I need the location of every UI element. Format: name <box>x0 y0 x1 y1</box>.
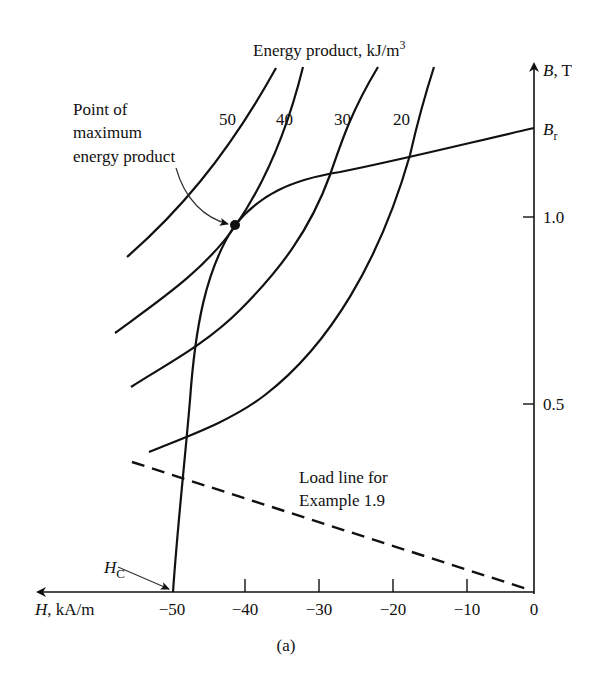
x-tick-label--40: −40 <box>232 600 259 619</box>
max-point-pointer-arrow <box>176 168 228 224</box>
hc-pointer-arrow <box>118 567 169 589</box>
x-axis <box>38 579 534 592</box>
max-energy-point <box>230 220 240 230</box>
demagnetization-curve <box>173 128 534 592</box>
x-tick-label-0: 0 <box>530 600 539 619</box>
curve-40 <box>115 67 303 333</box>
svg-text:Example 1.9: Example 1.9 <box>299 491 385 510</box>
x-axis-label: H, kA/m <box>34 600 95 619</box>
y-tick-label-1.0: 1.0 <box>543 208 564 227</box>
svg-text:maximum: maximum <box>73 123 142 142</box>
svg-text:Load line for: Load line for <box>299 468 388 487</box>
curve-label-20: 20 <box>393 110 410 129</box>
curve-label-50: 50 <box>219 110 236 129</box>
max-point-label: Point of maximum energy product <box>73 100 175 166</box>
br-label: Br <box>543 120 557 143</box>
load-line-label: Load line for Example 1.9 <box>299 468 388 510</box>
y-tick-label-0.5: 0.5 <box>543 395 564 414</box>
svg-text:energy product: energy product <box>73 147 175 166</box>
x-tick-label--30: −30 <box>306 600 333 619</box>
curve-label-30: 30 <box>334 110 351 129</box>
bh-curve-figure: Energy product, kJ/m3 50 40 30 20 Point … <box>0 0 608 692</box>
figure-caption: (a) <box>277 636 296 655</box>
x-tick-label--50: −50 <box>159 600 186 619</box>
energy-product-curves <box>115 67 434 452</box>
y-axis-label: B, T <box>543 61 573 80</box>
x-tick-label--10: −10 <box>454 600 481 619</box>
hc-label: HC <box>103 558 125 581</box>
curve-label-40: 40 <box>276 110 293 129</box>
x-tick-label--20: −20 <box>380 600 407 619</box>
energy-product-title: Energy product, kJ/m3 <box>253 38 406 60</box>
svg-text:Point of: Point of <box>73 100 128 119</box>
y-axis <box>523 64 534 594</box>
